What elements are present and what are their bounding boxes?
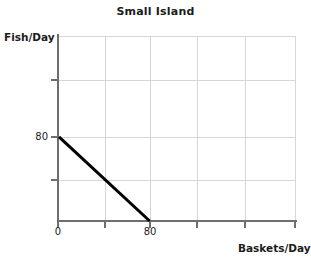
- x-axis-tick: [294, 222, 296, 228]
- x-tick-label-0: 0: [43, 226, 73, 237]
- gridline-vertical: [295, 36, 296, 221]
- x-axis-title: Baskets/Day: [238, 242, 311, 254]
- x-axis-line: [57, 220, 297, 222]
- x-axis-tick: [196, 222, 198, 228]
- y-axis-title: Fish/Day: [4, 31, 55, 43]
- plot-top-border: [58, 36, 296, 37]
- y-axis-tick: [51, 179, 58, 181]
- chart-canvas: Small Island 80 0 80 Fish/Day Baskets/Da…: [0, 0, 311, 264]
- gridline-vertical: [245, 36, 246, 221]
- y-axis-tick: [51, 136, 58, 138]
- gridline-vertical: [105, 36, 106, 221]
- plot-area: [58, 36, 296, 221]
- x-axis-tick: [104, 222, 106, 228]
- y-tick-label-80: 80: [18, 131, 48, 142]
- x-tick-label-80: 80: [135, 226, 165, 237]
- gridline-horizontal: [58, 180, 296, 181]
- gridline-horizontal: [58, 137, 296, 138]
- y-axis-line: [57, 34, 59, 223]
- x-axis-tick: [244, 222, 246, 228]
- gridline-vertical: [197, 36, 198, 221]
- y-axis-tick: [51, 79, 58, 81]
- page-title: Small Island: [0, 5, 311, 18]
- gridline-horizontal: [58, 80, 296, 81]
- gridline-vertical: [150, 36, 151, 221]
